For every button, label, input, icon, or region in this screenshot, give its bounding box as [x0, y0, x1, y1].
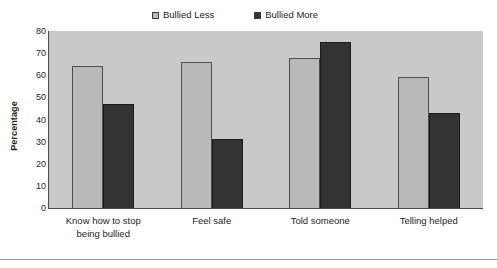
- x-label-line-1: Know how to stop: [51, 214, 156, 227]
- y-tick-20: 20: [24, 159, 46, 168]
- bar-bullied-more-2: [212, 139, 243, 208]
- x-label-feel-safe: Feel safe: [158, 214, 267, 256]
- bottom-divider: [0, 259, 497, 260]
- bar-bullied-less-3: [289, 58, 320, 208]
- legend-label-bullied-less: Bullied Less: [163, 10, 214, 20]
- x-label-telling-helped: Telling helped: [375, 214, 484, 256]
- bar-group-know-how-to-stop-being-bullied: [49, 31, 158, 208]
- y-tick-10: 10: [24, 181, 46, 190]
- legend-label-bullied-more: Bullied More: [265, 10, 318, 20]
- bar-bullied-less-1: [72, 66, 103, 208]
- y-tick-70: 70: [24, 49, 46, 58]
- y-tick-60: 60: [24, 71, 46, 80]
- bar-chart-figure: Bullied Less Bullied More Percentage 80 …: [0, 0, 497, 268]
- x-axis-category-labels: Know how to stop being bullied Feel safe…: [49, 214, 483, 256]
- y-tick-30: 30: [24, 137, 46, 146]
- y-tick-80: 80: [24, 27, 46, 36]
- x-label-line-1: Telling helped: [377, 214, 482, 227]
- bar-group-telling-helped: [375, 31, 484, 208]
- legend-entry-bullied-more: Bullied More: [254, 10, 318, 20]
- chart-legend: Bullied Less Bullied More: [152, 7, 372, 23]
- legend-swatch-dark-icon: [254, 12, 261, 19]
- x-label-told-someone: Told someone: [266, 214, 375, 256]
- y-axis-tick-labels: 80 70 60 50 40 30 20 10 0: [24, 31, 46, 208]
- bar-bullied-more-1: [103, 104, 134, 208]
- y-tick-0: 0: [24, 204, 46, 213]
- bar-group-feel-safe: [158, 31, 267, 208]
- bar-bullied-more-3: [320, 42, 351, 208]
- bar-groups: [49, 31, 483, 208]
- legend-swatch-light-gray-icon: [152, 12, 159, 19]
- x-label-know-how-to-stop-being-bullied: Know how to stop being bullied: [49, 214, 158, 256]
- legend-entry-bullied-less: Bullied Less: [152, 10, 214, 20]
- y-tick-50: 50: [24, 93, 46, 102]
- y-tick-40: 40: [24, 115, 46, 124]
- x-axis-line: [49, 208, 483, 209]
- x-label-line-2: being bullied: [51, 227, 156, 240]
- x-label-line-1: Told someone: [268, 214, 373, 227]
- bar-bullied-less-2: [181, 62, 212, 208]
- bar-bullied-more-4: [429, 113, 460, 208]
- y-axis-title-text: Percentage: [9, 101, 19, 151]
- bar-bullied-less-4: [398, 77, 429, 208]
- x-label-line-1: Feel safe: [160, 214, 265, 227]
- y-axis-title: Percentage: [5, 86, 23, 166]
- bar-group-told-someone: [266, 31, 375, 208]
